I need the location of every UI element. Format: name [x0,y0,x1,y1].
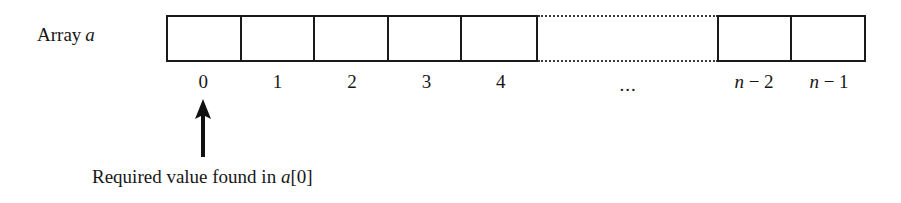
array-cell-n-minus-2 [719,17,792,60]
array-cell-3 [389,17,463,60]
index-label-1: 1 [240,71,314,93]
index-label-n-minus-1-rest: − 1 [819,71,849,92]
figure-caption: Required value found in a[0] [92,165,313,188]
array-label-variable: a [81,24,95,45]
array-cells-left-group [166,15,538,62]
array-cell-2 [315,17,389,60]
array-cell-n-minus-1 [792,17,864,60]
index-label-3: 3 [389,71,463,93]
caption-prefix: Required value found in [92,166,281,187]
index-label-4: 4 [464,71,538,93]
array-cell-4 [462,17,536,60]
array-label-text: Array [37,24,81,45]
index-label-n-minus-1-variable: n [809,71,819,92]
index-label-n-minus-1: n − 1 [784,71,874,93]
index-label-2: 2 [315,71,389,93]
index-label-ellipsis: ... [590,74,666,96]
index-label-0: 0 [166,71,240,93]
array-label: Arraya [37,24,95,46]
index-label-n-minus-2-rest: − 2 [744,71,774,92]
index-label-n-minus-2-variable: n [734,71,744,92]
array-cell-0 [168,17,242,60]
continuation-dotted-line-bottom [538,60,718,62]
up-arrow-icon [194,99,212,157]
array-cell-1 [242,17,316,60]
array-diagram: Arraya 0 1 2 3 4 ... n − 2 n − 1 Require… [0,0,901,203]
array-cells-right-group [717,15,866,62]
caption-suffix: [0] [290,166,312,187]
caption-variable: a [281,166,291,187]
continuation-dotted-line-top [538,15,718,17]
